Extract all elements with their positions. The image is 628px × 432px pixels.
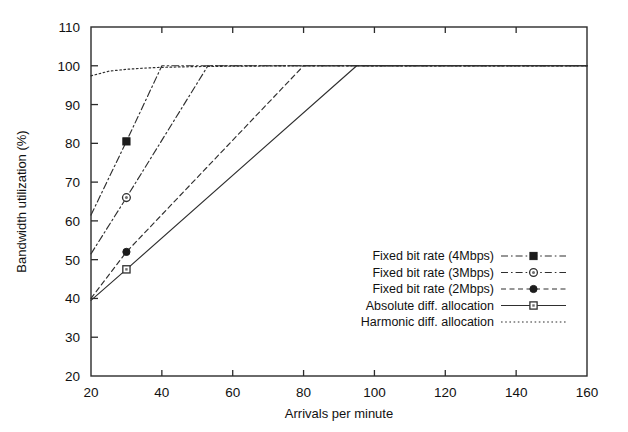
x-tick-label: 80 — [296, 385, 311, 400]
legend-label: Absolute diff. allocation — [366, 299, 494, 313]
legend-item: Fixed bit rate (3Mbps) — [372, 266, 566, 280]
series-line-3 — [91, 66, 587, 301]
y-tick-label: 50 — [65, 253, 80, 268]
legend-label: Fixed bit rate (3Mbps) — [372, 266, 494, 280]
series-marker-0 — [123, 138, 130, 145]
x-tick-label: 160 — [576, 385, 599, 400]
series-marker-1-center — [125, 196, 128, 199]
x-tick-label: 20 — [83, 385, 98, 400]
legend-marker — [530, 285, 537, 292]
data-markers-layer — [123, 138, 131, 273]
axis-labels-layer: 2040608010012014016020304050607080901001… — [14, 20, 598, 421]
bandwidth-utilization-line-chart: 2040608010012014016020304050607080901001… — [0, 0, 628, 432]
series-line-0 — [91, 66, 587, 215]
y-tick-label: 100 — [57, 59, 80, 74]
chart-figure: 2040608010012014016020304050607080901001… — [0, 0, 628, 432]
y-tick-label: 70 — [65, 175, 80, 190]
chart-legend: Fixed bit rate (4Mbps)Fixed bit rate (3M… — [361, 249, 566, 329]
legend-item: Absolute diff. allocation — [366, 299, 566, 313]
legend-item: Harmonic diff. allocation — [361, 315, 566, 329]
legend-label: Harmonic diff. allocation — [361, 315, 494, 329]
legend-marker — [530, 252, 537, 259]
y-tick-label: 60 — [65, 214, 80, 229]
legend-label: Fixed bit rate (4Mbps) — [372, 249, 494, 263]
axes-layer — [91, 27, 587, 376]
x-tick-label: 120 — [434, 385, 457, 400]
x-tick-label: 140 — [505, 385, 528, 400]
y-tick-label: 20 — [65, 369, 80, 384]
series-line-4 — [91, 66, 587, 76]
data-series-layer — [91, 66, 587, 301]
y-tick-label: 90 — [65, 98, 80, 113]
y-tick-label: 30 — [65, 330, 80, 345]
x-axis-title: Arrivals per minute — [285, 406, 393, 421]
y-axis-title: Bandwidth utilization (%) — [14, 130, 29, 272]
plot-frame — [91, 27, 587, 376]
x-tick-label: 100 — [363, 385, 386, 400]
legend-item: Fixed bit rate (2Mbps) — [372, 282, 566, 296]
x-tick-label: 40 — [154, 385, 169, 400]
legend-item: Fixed bit rate (4Mbps) — [372, 249, 566, 263]
legend-label: Fixed bit rate (2Mbps) — [372, 282, 494, 296]
x-tick-label: 60 — [225, 385, 240, 400]
legend-marker-center — [532, 304, 534, 306]
series-marker-2 — [123, 248, 130, 255]
y-tick-label: 40 — [65, 291, 80, 306]
legend-marker-center — [532, 271, 535, 274]
series-line-1 — [91, 66, 587, 254]
series-line-2 — [91, 66, 587, 299]
y-tick-label: 110 — [58, 20, 80, 35]
series-marker-3-center — [125, 268, 127, 270]
y-tick-label: 80 — [65, 136, 80, 151]
